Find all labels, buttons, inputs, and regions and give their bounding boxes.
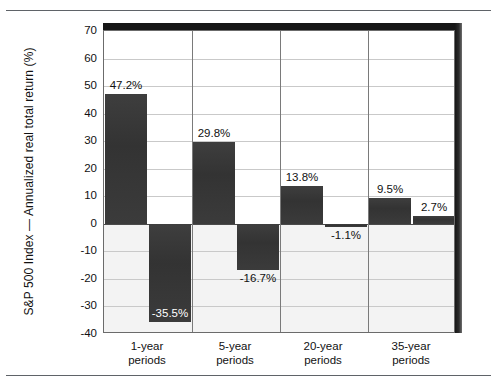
bar-value-label-1-year-periods-best: 47.2% — [103, 79, 155, 91]
y-axis-title: S&P 500 Index — Annualized real total re… — [22, 30, 40, 333]
bar-value-label-20-year-periods-worst: -1.1% — [317, 229, 375, 241]
y-tick-label--40: -40 — [57, 327, 97, 339]
bar-value-label-35-year-periods-worst: 2.7% — [405, 201, 455, 213]
bar-value-label-35-year-periods-best: 9.5% — [361, 183, 419, 195]
y-tick-label--10: -10 — [57, 244, 97, 256]
gridline-20 — [104, 169, 454, 170]
chart-frame: 47.2%-35.5%29.8%-16.7%13.8%-1.1%9.5%2.7%… — [103, 30, 455, 333]
bar-35-year-periods-worst — [413, 216, 455, 223]
bar-5-year-periods-worst — [237, 224, 279, 270]
x-category-label-1: 5-yearperiods — [191, 339, 279, 367]
y-tick-label-30: 30 — [57, 134, 97, 146]
bar-5-year-periods-best — [193, 142, 235, 224]
gridline-40 — [104, 114, 454, 115]
y-tick-label-0: 0 — [57, 217, 97, 229]
x-category-label-0: 1-yearperiods — [103, 339, 191, 367]
gridline-60 — [104, 59, 454, 60]
gridline-30 — [104, 141, 454, 142]
figure: S&P 500 Index — Annualized real total re… — [0, 0, 497, 386]
group-divider-3 — [368, 31, 369, 332]
x-category-label-2: 20-yearperiods — [279, 339, 367, 367]
plot-area: 47.2%-35.5%29.8%-16.7%13.8%-1.1%9.5%2.7% — [103, 30, 455, 333]
frame-top-shadow — [103, 23, 462, 30]
x-category-label-3: 35-yearperiods — [367, 339, 455, 367]
y-tick-label-60: 60 — [57, 52, 97, 64]
y-tick-label-40: 40 — [57, 107, 97, 119]
top-divider-rule — [6, 10, 491, 11]
y-tick-label-10: 10 — [57, 189, 97, 201]
gridline-50 — [104, 86, 454, 87]
bottom-divider-rule — [6, 375, 491, 376]
frame-right-shadow — [455, 23, 462, 333]
bar-20-year-periods-best — [281, 186, 323, 224]
bar-20-year-periods-worst — [325, 224, 367, 227]
bar-value-label-1-year-periods-worst: -35.5% — [141, 307, 199, 319]
bar-value-label-20-year-periods-best: 13.8% — [273, 171, 331, 183]
y-tick-label--30: -30 — [57, 299, 97, 311]
y-tick-label-70: 70 — [57, 24, 97, 36]
bar-value-label-5-year-periods-worst: -16.7% — [229, 272, 287, 284]
y-tick-label--20: -20 — [57, 272, 97, 284]
bar-1-year-periods-best — [105, 94, 147, 224]
y-tick-label-50: 50 — [57, 79, 97, 91]
y-tick-label-20: 20 — [57, 162, 97, 174]
bar-value-label-5-year-periods-best: 29.8% — [185, 127, 243, 139]
